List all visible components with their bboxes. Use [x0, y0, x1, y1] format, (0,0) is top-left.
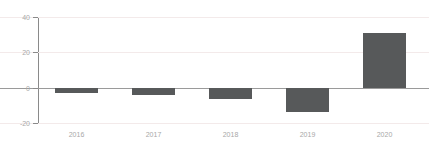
x-tick-label-2020: 2020: [346, 131, 423, 138]
x-tick-label-2016: 2016: [38, 131, 115, 138]
y-axis-line: [38, 17, 39, 123]
x-tick-label-2018: 2018: [192, 131, 269, 138]
bar-2016[interactable]: [55, 88, 97, 93]
y-tick-mark-20: [33, 52, 38, 53]
y-tick-label-20: 20: [0, 49, 30, 56]
x-tick-label-2019: 2019: [269, 131, 346, 138]
y-tick-label-0: 0: [0, 85, 30, 92]
y-tick-mark-40: [33, 17, 38, 18]
y-tick-mark-0: [33, 88, 38, 89]
bar-2018[interactable]: [209, 88, 251, 99]
y-tick-label-minus-20: -20: [0, 120, 30, 127]
y-tick-label-40: 40: [0, 14, 30, 21]
y-tick-mark-minus-20: [33, 123, 38, 124]
bar-2020[interactable]: [363, 33, 405, 88]
bar-2017[interactable]: [132, 88, 174, 95]
bar-chart: 40 20 0 -20 2016 2017 2018 2019 2020: [0, 0, 429, 151]
bar-2019[interactable]: [286, 88, 328, 112]
gridline-40: [0, 17, 429, 18]
x-tick-label-2017: 2017: [115, 131, 192, 138]
gridline-minus-20: [0, 123, 429, 124]
